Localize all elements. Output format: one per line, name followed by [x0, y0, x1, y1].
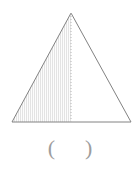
- triangle-diagram: [0, 0, 140, 135]
- figure-root: (): [0, 0, 140, 169]
- answer-blank[interactable]: (): [0, 133, 140, 169]
- close-paren: ): [85, 133, 92, 163]
- open-paren: (: [48, 133, 55, 163]
